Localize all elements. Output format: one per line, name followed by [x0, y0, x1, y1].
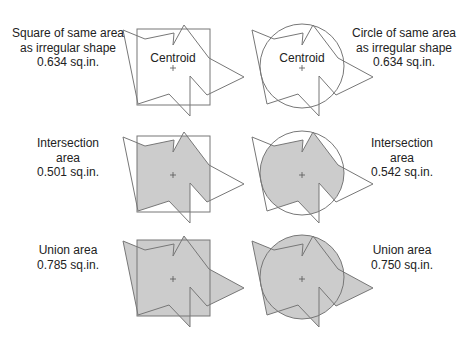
centroid-marker-icon [170, 65, 176, 71]
label-line: Circle of same area [348, 26, 459, 41]
circle-union-label: Union area 0.750 sq.in. [352, 243, 452, 272]
square-outline-figure: Centroid [123, 25, 244, 116]
label-line: Union area [8, 243, 128, 258]
square-intersection-figure [123, 132, 244, 223]
label-line: 0.501 sq.in. [8, 165, 128, 180]
label-line: 0.750 sq.in. [352, 258, 452, 273]
label-line: area [8, 151, 128, 166]
label-line: 0.634 sq.in. [8, 55, 128, 70]
square-union-label: Union area 0.785 sq.in. [8, 243, 128, 272]
label-line: 0.542 sq.in. [352, 165, 452, 180]
label-line: 0.634 sq.in. [348, 55, 459, 70]
centroid-label: Centroid [150, 51, 195, 65]
label-line: Intersection [352, 136, 452, 151]
circle-same-area-label: Circle of same area as irregular shape 0… [348, 26, 459, 70]
square-intersection-label: Intersection area 0.501 sq.in. [8, 136, 128, 180]
label-line: Square of same area [8, 26, 128, 41]
square-same-area-label: Square of same area as irregular shape 0… [8, 26, 128, 70]
circle-intersection-label: Intersection area 0.542 sq.in. [352, 136, 452, 180]
label-line: as irregular shape [348, 41, 459, 56]
centroid-marker-icon [299, 65, 305, 71]
label-line: Union area [352, 243, 452, 258]
square-union-figure [123, 236, 244, 327]
label-line: area [352, 151, 452, 166]
label-line: 0.785 sq.in. [8, 258, 128, 273]
label-line: as irregular shape [8, 41, 128, 56]
centroid-label: Centroid [279, 51, 324, 65]
label-line: Intersection [8, 136, 128, 151]
